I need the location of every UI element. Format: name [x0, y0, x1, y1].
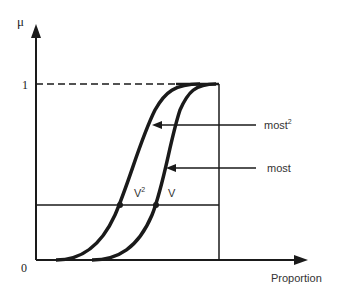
most-pointer	[166, 164, 256, 172]
v-squared-label: V2	[134, 186, 145, 199]
y-tick-1: 1	[22, 78, 28, 92]
membership-diagram: μ 1 0 Proportion V2 V most2 most	[0, 0, 342, 294]
arrow-left-icon	[152, 121, 162, 129]
y-axis-label: μ	[17, 14, 24, 29]
v-label: V	[168, 187, 176, 199]
most-squared-label: most2	[264, 118, 292, 131]
y-axis	[31, 24, 41, 260]
y-axis-arrow-icon	[31, 24, 41, 38]
intersection-v-squared	[117, 202, 123, 208]
y-tick-0: 0	[21, 261, 27, 275]
x-axis-arrow-icon	[294, 255, 308, 265]
most-squared-pointer	[152, 121, 256, 129]
x-axis-label: Proportion	[271, 272, 322, 284]
most-label: most	[267, 162, 291, 174]
intersection-v	[153, 202, 159, 208]
